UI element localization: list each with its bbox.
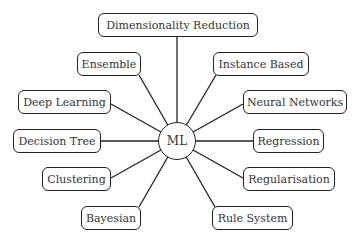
node-label: Bayesian — [86, 212, 136, 225]
node-label: Regularisation — [248, 173, 330, 186]
node-instance-based: Instance Based — [213, 52, 309, 76]
node-regularisation: Regularisation — [243, 167, 335, 191]
node-bayesian: Bayesian — [81, 206, 141, 230]
node-label: Ensemble — [82, 58, 137, 71]
node-neural-networks: Neural Networks — [243, 90, 347, 114]
center-node-ml: ML — [158, 122, 196, 160]
node-dimensionality-reduction: Dimensionality Reduction — [98, 13, 258, 37]
node-ensemble: Ensemble — [77, 52, 141, 76]
node-label: Deep Learning — [23, 96, 106, 109]
node-label: Neural Networks — [247, 96, 343, 109]
node-label: Dimensionality Reduction — [106, 19, 250, 32]
node-decision-tree: Decision Tree — [13, 129, 101, 153]
node-label: Regression — [257, 135, 319, 148]
node-label: Clustering — [47, 173, 106, 186]
node-rule-system: Rule System — [212, 206, 293, 230]
node-regression: Regression — [253, 129, 324, 153]
node-label: Rule System — [218, 212, 288, 225]
node-label: Instance Based — [218, 58, 303, 71]
node-deep-learning: Deep Learning — [18, 90, 111, 114]
center-label: ML — [167, 134, 187, 148]
node-label: Decision Tree — [19, 135, 96, 148]
node-clustering: Clustering — [42, 167, 111, 191]
